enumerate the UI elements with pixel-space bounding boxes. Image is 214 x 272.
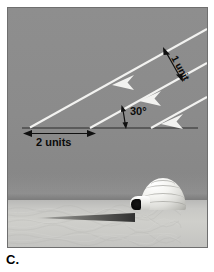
two-units-label: 2 units: [36, 136, 71, 148]
illustration-frame: 1 unit 30° 2 units: [8, 8, 207, 247]
figure-caption: C.: [6, 252, 19, 267]
one-unit-label: 1 unit: [169, 54, 192, 83]
angle-label: 30°: [130, 105, 147, 117]
figure-root: 1 unit 30° 2 units C.: [0, 0, 214, 272]
diagram-overlay: 1 unit 30° 2 units: [8, 8, 207, 247]
light-ray-3: [151, 97, 207, 129]
